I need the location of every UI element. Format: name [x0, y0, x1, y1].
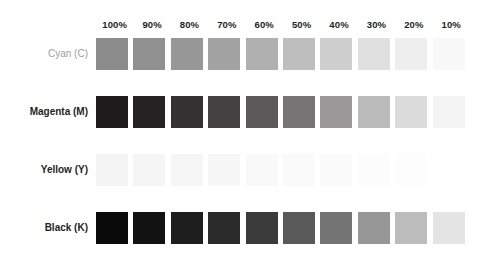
- swatch-strip-yellow: [96, 154, 470, 186]
- swatch-slot: [133, 154, 170, 186]
- ink-row-yellow: Yellow (Y): [0, 154, 486, 186]
- swatch-slot: [283, 38, 320, 70]
- cmyk-tint-chart: 100% 90% 80% 70% 60% 50% 40% 30% 20% 10%…: [0, 0, 486, 261]
- tint-swatch: [96, 154, 128, 186]
- swatch-slot: [246, 96, 283, 128]
- tint-swatch: [433, 212, 465, 244]
- swatch-slot: [433, 212, 470, 244]
- swatch-slot: [358, 212, 395, 244]
- swatch-slot: [358, 154, 395, 186]
- swatch-slot: [283, 96, 320, 128]
- tint-swatch: [133, 38, 165, 70]
- tint-swatch: [283, 38, 315, 70]
- tint-swatch: [96, 38, 128, 70]
- tint-swatch: [171, 212, 203, 244]
- tint-swatch: [246, 212, 278, 244]
- percent-header-cell: 10%: [433, 18, 470, 32]
- swatch-slot: [133, 38, 170, 70]
- percent-header-cell: 80%: [171, 18, 208, 32]
- tint-swatch: [246, 96, 278, 128]
- swatch-slot: [96, 212, 133, 244]
- tint-swatch: [320, 96, 352, 128]
- swatch-slot: [433, 154, 470, 186]
- tint-swatch: [96, 96, 128, 128]
- tint-swatch: [433, 38, 465, 70]
- tint-swatch: [395, 96, 427, 128]
- swatch-slot: [208, 212, 245, 244]
- swatch-slot: [283, 212, 320, 244]
- percent-label: 20%: [398, 18, 430, 32]
- tint-swatch: [358, 38, 390, 70]
- tint-swatch: [208, 154, 240, 186]
- percent-header-cell: 70%: [208, 18, 245, 32]
- tint-swatch: [133, 96, 165, 128]
- tint-swatch: [283, 212, 315, 244]
- swatch-slot: [96, 154, 133, 186]
- tint-swatch: [208, 38, 240, 70]
- ink-row-magenta: Magenta (M): [0, 96, 486, 128]
- ink-row-black: Black (K): [0, 212, 486, 244]
- swatch-slot: [133, 212, 170, 244]
- swatch-slot: [133, 96, 170, 128]
- tint-swatch: [320, 38, 352, 70]
- swatch-slot: [320, 38, 357, 70]
- tint-swatch: [320, 154, 352, 186]
- swatch-slot: [171, 96, 208, 128]
- swatch-slot: [320, 154, 357, 186]
- swatch-slot: [395, 38, 432, 70]
- swatch-slot: [433, 38, 470, 70]
- ink-row-label-yellow: Yellow (Y): [0, 154, 88, 186]
- tint-swatch: [358, 96, 390, 128]
- swatch-slot: [433, 96, 470, 128]
- tint-swatch: [283, 154, 315, 186]
- swatch-slot: [208, 154, 245, 186]
- percent-label: 90%: [136, 18, 168, 32]
- swatch-slot: [358, 96, 395, 128]
- percent-label: 80%: [173, 18, 205, 32]
- swatch-strip-black: [96, 212, 470, 244]
- tint-swatch: [246, 154, 278, 186]
- percent-label: 30%: [360, 18, 392, 32]
- swatch-slot: [171, 38, 208, 70]
- swatch-strip-magenta: [96, 96, 470, 128]
- tint-swatch: [171, 38, 203, 70]
- ink-row-label-black: Black (K): [0, 212, 88, 244]
- swatch-slot: [320, 96, 357, 128]
- tint-swatch: [171, 96, 203, 128]
- tint-swatch: [358, 154, 390, 186]
- ink-row-label-magenta: Magenta (M): [0, 96, 88, 128]
- tint-swatch: [171, 154, 203, 186]
- ink-row-label-cyan: Cyan (C): [0, 38, 88, 70]
- percent-label: 60%: [248, 18, 280, 32]
- swatch-slot: [246, 212, 283, 244]
- percent-label: 100%: [99, 18, 131, 32]
- percent-label: 40%: [323, 18, 355, 32]
- tint-swatch: [395, 154, 427, 186]
- tint-swatch: [208, 212, 240, 244]
- percent-header-cell: 100%: [96, 18, 133, 32]
- swatch-slot: [96, 38, 133, 70]
- tint-swatch: [246, 38, 278, 70]
- percent-header-cell: 30%: [358, 18, 395, 32]
- tint-swatch: [395, 38, 427, 70]
- tint-swatch: [208, 96, 240, 128]
- swatch-slot: [283, 154, 320, 186]
- percent-header-cell: 60%: [246, 18, 283, 32]
- swatch-slot: [246, 154, 283, 186]
- swatch-slot: [358, 38, 395, 70]
- tint-swatch: [433, 96, 465, 128]
- tint-swatch: [133, 154, 165, 186]
- percent-header-cell: 90%: [133, 18, 170, 32]
- tint-swatch: [433, 154, 465, 186]
- swatch-strip-cyan: [96, 38, 470, 70]
- swatch-slot: [208, 96, 245, 128]
- swatch-slot: [96, 96, 133, 128]
- percent-header-cell: 20%: [395, 18, 432, 32]
- tint-swatch: [283, 96, 315, 128]
- swatch-slot: [395, 96, 432, 128]
- tint-swatch: [96, 212, 128, 244]
- swatch-slot: [171, 212, 208, 244]
- percent-label: 70%: [211, 18, 243, 32]
- swatch-slot: [171, 154, 208, 186]
- tint-swatch: [133, 212, 165, 244]
